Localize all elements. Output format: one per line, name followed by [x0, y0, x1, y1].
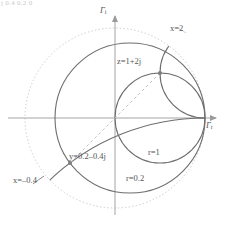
annotation-z-point: z=1+2j — [117, 57, 141, 66]
gamma-r-subscript: r — [211, 124, 213, 130]
gamma-i-subscript: i — [105, 9, 107, 15]
annotation-x-equals-minus-0p4: x=–0.4 — [13, 176, 37, 185]
gamma-i-axis-label: Γi — [100, 6, 107, 15]
annotation-y-point: y=0.2–0.4j — [69, 152, 106, 161]
annotation-r-equals-1: r=1 — [148, 148, 160, 157]
smith-chart-canvas — [0, 0, 230, 229]
gamma-r-axis-label: Γr — [206, 121, 213, 130]
reactance-arc-x2 — [160, 28, 230, 118]
smith-chart-figure: j 0.4 0.2 0 — [0, 0, 230, 229]
annotation-x-equals-2: x=2 — [170, 24, 183, 33]
z-point-marker — [158, 71, 162, 75]
annotation-r-equals-0p2: r=0.2 — [126, 174, 144, 183]
y-point-marker — [68, 161, 72, 165]
